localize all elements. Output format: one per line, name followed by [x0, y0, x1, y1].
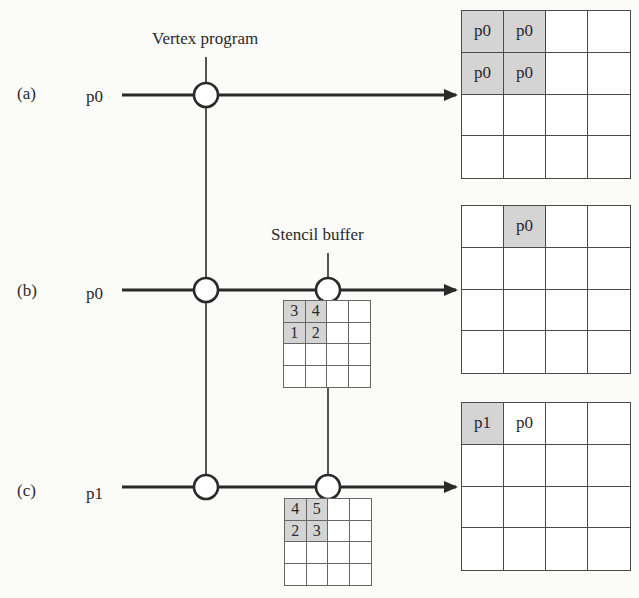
- framebuffer-cell: [546, 248, 588, 290]
- framebuffer-cell: [504, 248, 546, 290]
- framebuffer-cell: [504, 528, 546, 570]
- stencil-cell: [350, 542, 372, 564]
- framebuffer-cell: [504, 136, 546, 178]
- row-tag-b: (b): [17, 282, 37, 299]
- framebuffer-grid-a: p0p0p0p0: [461, 10, 631, 179]
- framebuffer-cell: [588, 206, 630, 248]
- stencil-cell: [349, 366, 371, 388]
- stencil-node-c: [316, 475, 340, 499]
- framebuffer-cell: [504, 487, 546, 529]
- stencil-cell: [327, 301, 349, 323]
- stencil-cell: 3: [284, 301, 306, 323]
- stencil-cell: [306, 344, 328, 366]
- row-input-a: p0: [86, 88, 103, 105]
- row-tag-c: (c): [17, 482, 36, 499]
- framebuffer-cell: p0: [504, 53, 546, 95]
- framebuffer-cell: [588, 445, 630, 487]
- framebuffer-cell: [546, 206, 588, 248]
- framebuffer-cell: [588, 290, 630, 332]
- stencil-cell: [350, 499, 372, 521]
- stencil-cell: [284, 344, 306, 366]
- stencil-cell: 2: [306, 323, 328, 345]
- framebuffer-cell: [462, 136, 504, 178]
- framebuffer-cell: p0: [504, 11, 546, 53]
- framebuffer-cell: [546, 136, 588, 178]
- framebuffer-cell: [546, 403, 588, 445]
- framebuffer-cell: [504, 290, 546, 332]
- stencil-grid-c: 4523: [284, 498, 372, 586]
- framebuffer-cell: [546, 331, 588, 373]
- stencil-cell: [285, 564, 307, 586]
- framebuffer-cell: [546, 445, 588, 487]
- vertex-node-b: [194, 278, 218, 302]
- stencil-cell: [349, 344, 371, 366]
- framebuffer-cell: [462, 445, 504, 487]
- framebuffer-cell: [504, 331, 546, 373]
- framebuffer-cell: p0: [462, 53, 504, 95]
- framebuffer-cell: [504, 95, 546, 137]
- framebuffer-cell: [588, 95, 630, 137]
- framebuffer-cell: [462, 206, 504, 248]
- vertex-node-a: [194, 83, 218, 107]
- stencil-node-b: [316, 278, 340, 302]
- stencil-cell: [307, 564, 329, 586]
- stencil-cell: [284, 366, 306, 388]
- stencil-cell: [328, 564, 350, 586]
- framebuffer-cell: [546, 528, 588, 570]
- stencil-cell: [349, 323, 371, 345]
- framebuffer-cell: [546, 95, 588, 137]
- row-input-c: p1: [86, 485, 103, 502]
- stencil-cell: 5: [307, 499, 329, 521]
- stencil-cell: [327, 323, 349, 345]
- stencil-cell: 2: [285, 521, 307, 543]
- framebuffer-cell: [588, 11, 630, 53]
- row-tag-a: (a): [17, 85, 36, 102]
- vertex-program-label: Vertex program: [152, 30, 258, 47]
- stencil-cell: [307, 542, 329, 564]
- framebuffer-cell: [462, 528, 504, 570]
- framebuffer-cell: [462, 290, 504, 332]
- framebuffer-cell: [462, 487, 504, 529]
- framebuffer-cell: [588, 331, 630, 373]
- framebuffer-cell: p1: [462, 403, 504, 445]
- stencil-cell: [327, 366, 349, 388]
- framebuffer-grid-b: p0: [461, 205, 631, 374]
- stencil-cell: 3: [307, 521, 329, 543]
- stencil-grid-b: 3412: [283, 300, 371, 388]
- vertex-node-c: [194, 475, 218, 499]
- stencil-cell: [328, 542, 350, 564]
- framebuffer-cell: [546, 53, 588, 95]
- stencil-buffer-label: Stencil buffer: [271, 226, 364, 243]
- stencil-cell: [306, 366, 328, 388]
- stencil-cell: 4: [306, 301, 328, 323]
- framebuffer-cell: [462, 331, 504, 373]
- framebuffer-cell: [546, 487, 588, 529]
- framebuffer-cell: p0: [504, 206, 546, 248]
- stencil-cell: [328, 499, 350, 521]
- stencil-cell: 4: [285, 499, 307, 521]
- framebuffer-cell: [504, 445, 546, 487]
- stencil-cell: [327, 344, 349, 366]
- row-input-b: p0: [86, 285, 103, 302]
- stencil-cell: [350, 564, 372, 586]
- framebuffer-cell: p0: [462, 11, 504, 53]
- framebuffer-cell: [546, 11, 588, 53]
- stencil-cell: [350, 521, 372, 543]
- stencil-cell: [349, 301, 371, 323]
- framebuffer-cell: [588, 136, 630, 178]
- stencil-cell: [328, 521, 350, 543]
- stencil-cell: [285, 542, 307, 564]
- framebuffer-cell: [462, 95, 504, 137]
- framebuffer-cell: [588, 528, 630, 570]
- framebuffer-cell: [546, 290, 588, 332]
- framebuffer-cell: [462, 248, 504, 290]
- framebuffer-cell: p0: [504, 403, 546, 445]
- framebuffer-cell: [588, 53, 630, 95]
- framebuffer-cell: [588, 248, 630, 290]
- framebuffer-cell: [588, 487, 630, 529]
- framebuffer-grid-c: p1p0: [461, 402, 631, 571]
- stencil-cell: 1: [284, 323, 306, 345]
- framebuffer-cell: [588, 403, 630, 445]
